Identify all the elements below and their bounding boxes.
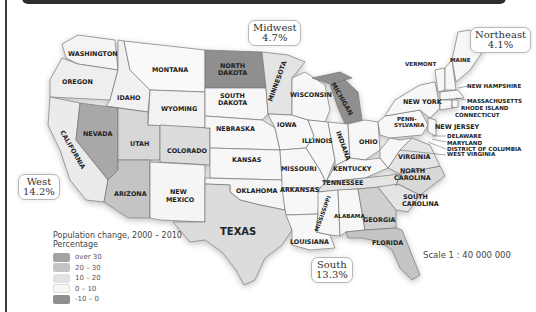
label-pennsylvania-2: SYLVANIA (394, 122, 425, 128)
legend-item: over 30 (53, 252, 182, 263)
region-value: 4.7% (253, 33, 296, 43)
state-nebraska (205, 116, 280, 150)
label-nevada: NEVADA (83, 130, 112, 138)
label-colorado: COLORADO (167, 147, 208, 155)
label-wyoming: WYOMING (161, 105, 197, 113)
label-oregon: OREGON (62, 78, 93, 86)
state-kansas (210, 148, 282, 180)
label-south-carolina-2: CAROLINA (402, 200, 439, 208)
legend-item: 20 – 30 (53, 263, 182, 274)
label-alabama: ALABAMA (334, 213, 365, 219)
label-georgia: GEORGIA (363, 216, 396, 224)
state-massachusetts (440, 90, 464, 100)
label-tennessee: TENNESSEE (322, 179, 363, 187)
label-nebraska: NEBRASKA (216, 125, 255, 133)
legend-swatch (53, 295, 70, 304)
label-idaho: IDAHO (117, 94, 141, 102)
label-kansas: KANSAS (232, 156, 262, 164)
legend-label: -10 – 0 (75, 295, 99, 303)
label-utah: UTAH (130, 140, 149, 148)
label-connecticut: CONNECTICUT (455, 112, 500, 118)
label-oklahoma: OKLAHOMA (236, 187, 278, 195)
state-florida (346, 228, 420, 280)
map-scale: Scale 1 : 40 000 000 (423, 250, 511, 260)
label-arkansas: ARKANSAS (280, 186, 320, 194)
legend-label: 0 – 10 (75, 285, 96, 293)
label-rhode-island: RHODE ISLAND (461, 105, 509, 111)
label-montana: MONTANA (152, 66, 188, 74)
label-arizona: ARIZONA (114, 190, 147, 198)
label-massachusetts: MASSACHUSETTS (467, 98, 522, 104)
label-vermont: VERMONT (405, 61, 436, 67)
region-value: 4.1% (475, 40, 526, 50)
label-new-mexico-2: MEXICO (166, 196, 195, 204)
label-louisiana: LOUISIANA (290, 238, 329, 246)
label-new-york: NEW YORK (403, 98, 443, 106)
legend-swatch (53, 274, 70, 283)
label-iowa: IOWA (277, 121, 297, 129)
legend-item: -10 – 0 (53, 294, 182, 305)
label-new-jersey: NEW JERSEY (435, 123, 480, 131)
legend-label: 20 – 30 (75, 264, 101, 272)
legend-label: 10 – 20 (75, 274, 101, 282)
state-connecticut (440, 100, 452, 110)
state-colorado (160, 125, 210, 165)
label-north-dakota-2: DAKOTA (218, 69, 247, 77)
legend-swatch (53, 253, 70, 262)
region-callout-west: West 14.2% (18, 174, 60, 200)
region-value: 14.2% (23, 187, 55, 197)
label-kentucky: KENTUCKY (333, 165, 372, 173)
legend-item: 0 – 10 (53, 284, 182, 295)
region-callout-midwest: Midwest 4.7% (248, 20, 301, 46)
legend-title: Population change, 2000 – 2010 (53, 231, 182, 240)
label-south-dakota-2: DAKOTA (218, 99, 247, 107)
label-washington: WASHINGTON (68, 50, 118, 58)
label-maine: MAINE (450, 57, 471, 63)
legend-label: over 30 (75, 253, 102, 261)
legend-swatch (53, 284, 70, 293)
label-texas: TEXAS (220, 226, 256, 237)
label-new-mexico-1: NEW (170, 188, 187, 196)
label-wisconsin: WISCONSIN (290, 91, 332, 99)
legend-swatch (53, 263, 70, 272)
region-value: 13.3% (316, 270, 348, 280)
label-virginia: VIRGINIA (398, 153, 431, 161)
legend: Population change, 2000 – 2010 Percentag… (53, 231, 182, 305)
region-callout-northeast: Northeast 4.1% (470, 27, 531, 53)
label-florida: FLORIDA (372, 239, 403, 247)
label-illinois: ILLINOIS (302, 137, 333, 145)
label-dc: DISTRICT OF COLUMBIA (447, 146, 522, 152)
label-missouri: MISSOURI (281, 165, 317, 173)
label-north-carolina-2: CAROLINA (394, 174, 431, 182)
legend-item: 10 – 20 (53, 273, 182, 284)
label-ohio: OHIO (359, 138, 378, 146)
label-new-hampshire: NEW HAMPSHIRE (467, 83, 521, 89)
region-callout-south: South 13.3% (311, 257, 353, 283)
legend-subtitle: Percentage (53, 240, 182, 249)
label-delaware: DELAWARE (447, 133, 482, 139)
